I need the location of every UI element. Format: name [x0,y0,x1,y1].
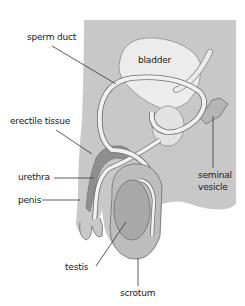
label-sperm-duct: sperm duct [27,32,76,43]
label-bladder: bladder [138,55,171,66]
label-testis: testis [65,262,88,273]
reproductive-diagram [0,0,245,306]
label-scrotum: scrotum [120,288,155,299]
label-penis: penis [18,195,41,206]
label-vesicle: vesicle [198,182,228,193]
label-seminal: seminal [198,170,232,181]
label-urethra: urethra [18,172,50,183]
label-erectile-tissue: erectile tissue [10,116,70,127]
